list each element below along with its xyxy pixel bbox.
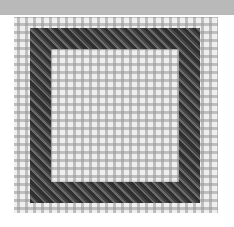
top-bar <box>0 0 234 15</box>
unstitched-center <box>51 49 179 182</box>
